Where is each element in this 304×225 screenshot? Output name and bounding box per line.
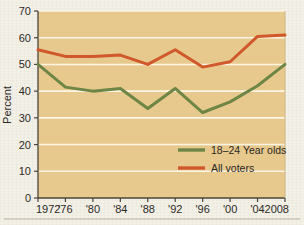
- y-tick-label-10: 10: [19, 165, 31, 177]
- x-tick-label-00: '00: [223, 203, 237, 215]
- y-tick-label-40: 40: [19, 85, 31, 97]
- y-axis-title: Percent: [1, 86, 13, 124]
- x-tick-label-1972: 1972: [36, 203, 60, 215]
- x-tick-label-88: '88: [141, 203, 155, 215]
- x-tick-label-76: '76: [58, 203, 72, 215]
- y-tick-label-0: 0: [25, 192, 31, 204]
- y-tick-label-50: 50: [19, 58, 31, 70]
- chart-svg: 706050403020100 1972'76'80'84'88'92'96'0…: [0, 0, 304, 225]
- x-tick-label-80: '80: [86, 203, 100, 215]
- y-tick-label-60: 60: [19, 32, 31, 44]
- x-tick-label-92: '92: [168, 203, 182, 215]
- x-tick-label-96: '96: [195, 203, 209, 215]
- voter-turnout-line-chart: 706050403020100 1972'76'80'84'88'92'96'0…: [0, 0, 304, 225]
- y-axis: 706050403020100: [19, 5, 38, 204]
- legend-label-18-24-year-olds: 18–24 Year olds: [211, 144, 286, 156]
- y-tick-label-30: 30: [19, 112, 31, 124]
- y-tick-label-20: 20: [19, 139, 31, 151]
- x-tick-label-84: '84: [113, 203, 127, 215]
- y-tick-label-70: 70: [19, 5, 31, 17]
- x-axis: 1972'76'80'84'88'92'96'00'042008: [36, 198, 289, 215]
- legend-label-all-voters: All voters: [211, 162, 254, 174]
- x-tick-label-2008: 2008: [265, 203, 289, 215]
- x-tick-label-04: '04: [250, 203, 264, 215]
